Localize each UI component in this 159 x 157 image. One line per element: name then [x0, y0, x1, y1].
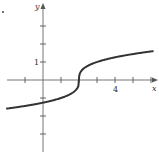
y-tick-label-1: 1: [34, 58, 39, 67]
x-tick-label-4: 4: [113, 85, 118, 94]
chart-plot: 4 x 1 y: [0, 0, 159, 157]
panel-marker: [2, 11, 4, 13]
x-axis-arrow-icon: [152, 78, 158, 83]
y-axis-label: y: [34, 2, 40, 11]
y-axis-arrow-icon: [41, 3, 46, 9]
x-axis-label: x: [152, 84, 157, 93]
x-axis: 4 x: [7, 77, 158, 94]
y-axis: 1 y: [34, 2, 46, 152]
